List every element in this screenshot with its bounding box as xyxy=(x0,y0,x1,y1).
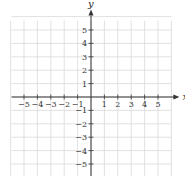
x-tick-label: 1 xyxy=(102,100,107,109)
y-axis-label: y xyxy=(87,0,94,9)
x-axis-label: x xyxy=(182,91,185,102)
y-axis-arrow-icon xyxy=(89,10,94,16)
y-tick-label: −2 xyxy=(75,120,87,129)
y-tick-label: 3 xyxy=(82,53,87,62)
x-axis-arrow-icon xyxy=(173,95,179,100)
x-tick-label: 4 xyxy=(142,100,147,109)
y-tick-label: 5 xyxy=(82,26,87,35)
x-tick-label: −4 xyxy=(32,100,44,109)
y-tick-label: −5 xyxy=(75,160,87,169)
x-tick-label: −3 xyxy=(45,100,57,109)
x-tick-label: 2 xyxy=(115,100,120,109)
y-tick-label: 2 xyxy=(82,66,87,75)
y-tick-label: −4 xyxy=(75,147,87,156)
x-tick-label: 5 xyxy=(155,100,160,109)
coordinate-plane: xy −5−4−3−2−11234554321−1−2−3−4−5 xyxy=(0,0,185,176)
x-tick-label: 3 xyxy=(129,100,134,109)
x-tick-label: −2 xyxy=(58,100,70,109)
y-tick-label: −1 xyxy=(75,106,87,115)
y-tick-label: −3 xyxy=(75,133,87,142)
x-tick-label: −5 xyxy=(18,100,30,109)
y-tick-label: 1 xyxy=(82,80,87,89)
y-tick-label: 4 xyxy=(82,39,87,48)
